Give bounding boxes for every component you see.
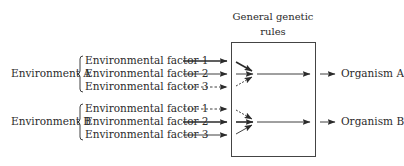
box-title-line-2: rules (223, 27, 323, 37)
converge-b-1 (236, 110, 252, 119)
env-a-factor-3: Environmental factor 3 (85, 81, 209, 92)
env-b-factor-3: Environmental factor 3 (85, 129, 209, 140)
env-a-factor-2: Environmental factor 2 (85, 68, 209, 79)
environment-a-label: Environment A (11, 68, 91, 79)
box-title-line-1: General genetic (223, 12, 323, 22)
organism-b-label: Organism B (341, 116, 404, 127)
rules-box (232, 43, 316, 157)
converge-b-3 (236, 125, 252, 134)
environment-b-label: Environment B (11, 116, 91, 127)
env-b-factor-2: Environmental factor 2 (85, 116, 209, 127)
organism-a-label: Organism A (341, 68, 404, 79)
converge-a-3 (236, 77, 252, 86)
env-b-factor-1: Environmental factor 1 (85, 103, 209, 114)
env-a-factor-1: Environmental factor 1 (85, 55, 209, 66)
converge-a-1 (236, 62, 252, 71)
